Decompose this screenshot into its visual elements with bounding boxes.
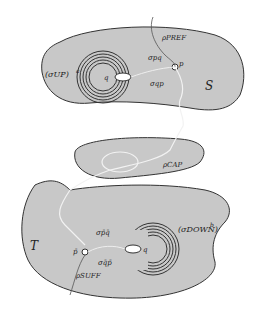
q-node-top	[115, 73, 131, 81]
label-cap: ρCAP	[162, 161, 183, 169]
label-sigma-qp-top: σqp	[150, 80, 164, 88]
q-node-bottom	[125, 245, 141, 253]
label-suffix: ρSUFF	[75, 272, 102, 280]
label-sigma-up-exp: a	[76, 67, 80, 74]
label-sigma-pq-bottom: σp̄q̄	[96, 229, 110, 237]
label-sigma-pq-top: σpq	[148, 54, 162, 62]
p-node-bottom	[82, 249, 88, 255]
label-p-bottom: p̄	[73, 248, 78, 256]
label-p-top: p	[179, 60, 184, 68]
label-q-bottom: q	[143, 246, 148, 254]
label-sigma-qp-bottom: σq̄p̄	[98, 259, 112, 267]
diagram: S (σUP) a q p σpq σqp ρPREF ρCAP T (σDOW…	[0, 0, 260, 312]
label-sigma-up: (σUP)	[45, 70, 69, 79]
label-prefix: ρPREF	[161, 34, 187, 42]
label-S: S	[205, 79, 213, 93]
region-cap	[75, 138, 204, 179]
label-sigma-down-exp: b	[210, 221, 214, 228]
label-q-top: q	[104, 74, 109, 82]
label-T: T	[30, 239, 39, 253]
region-s	[42, 27, 244, 110]
